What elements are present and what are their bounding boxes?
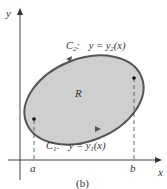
y-axis-label: y (5, 7, 11, 19)
x-axis-label: x (157, 166, 163, 178)
y-axis-arrow-icon (17, 8, 23, 15)
figure-caption: (b) (76, 177, 89, 189)
point-b (132, 76, 136, 80)
diagram-canvas: y x a b R C2: y = y2(x) C1: y = y1(x) (b… (0, 0, 167, 189)
point-a (32, 117, 36, 121)
tick-b: b (130, 162, 136, 174)
region-label: R (74, 87, 82, 99)
tick-a: a (30, 162, 36, 174)
x-axis-arrow-icon (155, 157, 162, 163)
upper-curve-label: C2: y = y2(x) (66, 40, 126, 53)
